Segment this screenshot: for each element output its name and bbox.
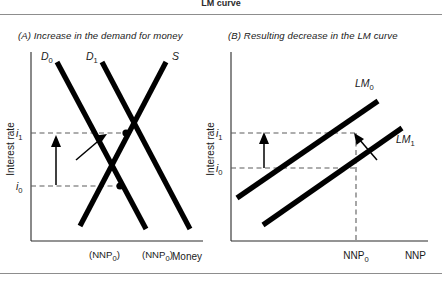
top-divider-rule — [0, 14, 442, 15]
panel-a-label-d0: D0 — [41, 50, 53, 65]
panel-a-x-axis-label: Money — [172, 251, 202, 262]
panel-a-tick-i0: i0 — [16, 180, 23, 195]
panel-a-rate-arrow — [51, 135, 61, 185]
panel-a-caption: (A) Increase in the demand for money — [18, 30, 183, 41]
panel-b-tick-i0: i0 — [216, 162, 223, 177]
panel-b-rate-arrow — [259, 132, 269, 168]
bottom-divider-rule — [0, 273, 442, 274]
panel-b-label-lm1: LM1 — [396, 133, 415, 148]
panel-b-chart: LM0 LM1 i1 i0 NNP0 Interest rate NNP — [200, 44, 442, 269]
panel-b-curve-lm1 — [263, 128, 402, 225]
figure-header-title: LM curve — [0, 0, 442, 8]
panel-a-label-s: S — [172, 50, 179, 62]
panel-a-label-nnp0-left: (NNP0) — [89, 249, 120, 263]
panel-b-label-lm0: LM0 — [355, 77, 374, 92]
panel-a-equilibrium-dot-lower — [116, 182, 123, 189]
panel-b-tick-i1: i1 — [216, 127, 223, 142]
panel-a-equilibrium-dot-upper — [122, 129, 129, 136]
panel-a-chart: D0 D1 S i1 i0 (NNP0) (NNP0) Interest rat… — [0, 44, 210, 269]
panel-a-tick-i1: i1 — [16, 127, 23, 142]
panel-a-label-d1: D1 — [86, 50, 98, 65]
panel-b-x-axis-label: NNP — [405, 250, 426, 261]
panel-b-tick-nnp0: NNP0 — [343, 250, 368, 264]
panel-b-caption: (B) Resulting decrease in the LM curve — [228, 30, 398, 41]
panel-a-curve-d0 — [57, 62, 146, 229]
panel-b-y-axis-label: Interest rate — [205, 122, 216, 176]
panel-b-curve-lm0 — [237, 101, 378, 198]
panel-a-curve-s — [80, 62, 166, 226]
panel-a-curve-d1 — [102, 62, 190, 229]
panel-a-y-axis-label: Interest rate — [5, 122, 16, 176]
figure-root: LM curve (A) Increase in the demand for … — [0, 0, 442, 282]
panel-a-label-nnp0-right: (NNP0) — [142, 249, 173, 263]
